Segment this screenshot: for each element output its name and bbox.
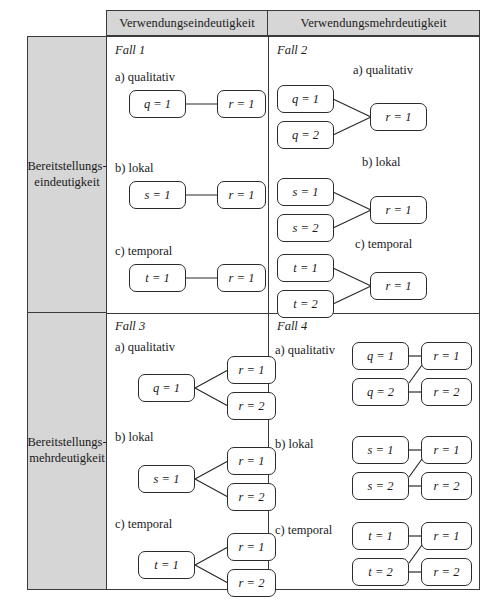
row-header-line-1: Bereitstellungs- [27,435,106,451]
connector [195,547,228,565]
node-left-1: q = 1 [138,374,195,402]
node-right-1: r = 1 [370,103,427,131]
node-right-2: r = 2 [227,392,276,420]
node-right-1: r = 1 [217,90,266,118]
node-left-2: s = 2 [352,472,409,500]
quadrant-fall-3: Fall 3 a) qualitativ q = 1 r = 1 r = 2 b… [107,313,268,589]
node-right-1: r = 1 [370,272,427,300]
node-right-1: r = 1 [370,196,427,224]
node-left-2: q = 2 [277,121,334,149]
figure-root: Verwendungseindeutigkeit Verwendungsmehr… [0,0,489,603]
row-header-line-1: Bereitstellungs- [27,159,106,175]
node-left-1: t = 1 [277,254,334,282]
node-right-1: r = 1 [421,436,472,464]
node-left-1: s = 1 [352,436,409,464]
table-body: Bereitstellungs- eindeutigkeit Bereitste… [27,36,480,590]
node-right-2: r = 2 [421,378,472,406]
quadrant-fall-4: Fall 4 a) qualitativ q = 1 q = 2 r = 1 r… [269,313,479,589]
node-left-1: t = 1 [138,551,195,579]
row-header-bereitstellungseindeutigkeit: Bereitstellungs- eindeutigkeit [28,37,107,313]
comparison-table: Verwendungseindeutigkeit Verwendungsmehr… [27,10,480,590]
node-right-1: r = 1 [227,447,276,475]
node-right-2: r = 2 [227,483,276,511]
node-left-1: t = 1 [352,522,409,550]
node-right-2: r = 2 [421,558,472,586]
table-header-row: Verwendungseindeutigkeit Verwendungsmehr… [106,10,480,36]
connector [333,286,371,304]
row-header-line-2: eindeutigkeit [27,175,106,191]
column-header-verwendungseindeutigkeit: Verwendungseindeutigkeit [106,10,268,36]
connector [333,268,371,286]
node-left-2: t = 2 [277,290,334,318]
node-left-2: s = 2 [277,214,334,242]
node-left-1: q = 1 [277,85,334,113]
quadrant-fall-1: Fall 1 a) qualitativ q = 1 r = 1 b) loka… [107,37,268,313]
node-left-1: q = 1 [129,90,186,118]
node-right-1: r = 1 [217,181,266,209]
row-header-line-2: mehrdeutigkeit [27,451,106,467]
connector [409,545,422,563]
node-left-2: t = 2 [352,558,409,586]
node-right-1: r = 1 [217,264,266,292]
column-header-verwendungsmehrdeutigkeit: Verwendungsmehrdeutigkeit [267,10,480,36]
node-left-1: s = 1 [129,181,186,209]
node-right-1: r = 1 [227,533,276,561]
row-header-bereitstellungsmehrdeutigkeit: Bereitstellungs- mehrdeutigkeit [28,313,107,589]
node-left-1: q = 1 [352,342,409,370]
node-left-1: s = 1 [138,465,195,493]
node-right-2: r = 2 [421,472,472,500]
node-right-1: r = 1 [421,342,472,370]
node-right-2: r = 2 [227,569,276,597]
connector [195,565,228,583]
node-left-1: s = 1 [277,178,334,206]
quadrant-fall-2: Fall 2 a) qualitativ q = 1 q = 2 r = 1 b… [269,37,479,313]
node-left-2: q = 2 [352,378,409,406]
node-right-1: r = 1 [421,522,472,550]
node-right-1: r = 1 [227,356,276,384]
node-left-1: t = 1 [129,264,186,292]
